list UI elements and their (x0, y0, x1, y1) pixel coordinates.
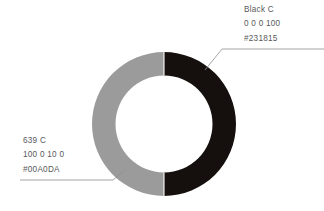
callout-label-639-c: 639 C 100 0 10 0 #00A0DA (23, 134, 64, 177)
label-black-c-cmyk: 0 0 0 100 (244, 17, 280, 31)
label-639-c-name: 639 C (23, 134, 64, 148)
donut-slice-black-c[interactable] (164, 52, 236, 196)
donut-slice-639-c[interactable] (92, 52, 164, 196)
label-639-c-hex: #00A0DA (23, 163, 64, 177)
label-black-c-hex: #231815 (244, 32, 280, 46)
label-639-c-cmyk: 100 0 10 0 (23, 148, 64, 162)
callout-label-black-c: Black C 0 0 0 100 #231815 (244, 3, 280, 46)
label-black-c-name: Black C (244, 3, 280, 17)
leader-line-black-c (205, 49, 324, 70)
chart-canvas: Black C 0 0 0 100 #231815 639 C 100 0 10… (0, 0, 324, 211)
